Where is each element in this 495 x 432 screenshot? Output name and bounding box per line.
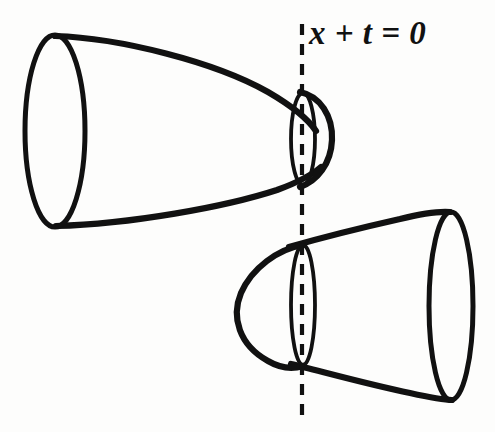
upper-cone-top-generator [55, 36, 316, 131]
lower-cone-top-generator [289, 212, 450, 247]
upper-cone-group [25, 35, 332, 227]
plane-equation-label: x + t = 0 [309, 17, 426, 50]
lower-cone-bottom-generator [291, 364, 452, 400]
lower-cone-right-rim-ellipse [429, 212, 473, 400]
upper-cone-bottom-generator [56, 167, 321, 226]
lower-cone-group [237, 212, 473, 400]
cone-diagram-svg [0, 0, 495, 432]
figure-canvas: x + t = 0 [0, 0, 495, 432]
upper-cone-left-rim-ellipse [25, 35, 85, 227]
